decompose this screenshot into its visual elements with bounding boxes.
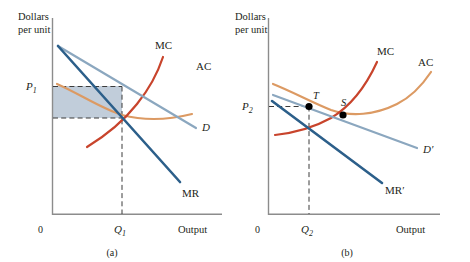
marginal-revenue-label-letters: MR	[385, 184, 403, 196]
average-cost-label: AC	[196, 60, 211, 72]
price-label-subscript: 2	[249, 106, 253, 115]
demand-label: D′	[422, 143, 434, 155]
point-s-marker	[339, 111, 346, 118]
panel-b-plot: Dollars per unit P2 Q2 0 Output T S MC A…	[235, 0, 470, 262]
quantity-label-subscript: 2	[309, 229, 313, 238]
quantity-label-letter: Q	[114, 223, 122, 235]
y-axis-title-line1: Dollars	[235, 11, 266, 22]
marginal-cost-label: MC	[377, 45, 394, 57]
demand-label-letter: D	[422, 143, 431, 155]
y-axis-title-line1: Dollars	[18, 11, 49, 22]
panel-b-caption: (b)	[341, 247, 353, 259]
x-axis-title: Output	[178, 224, 207, 235]
average-cost-curve	[273, 72, 431, 114]
marginal-revenue-label: MR	[182, 187, 200, 199]
y-axis-title-line2: per unit	[235, 24, 267, 35]
average-cost-label: AC	[418, 56, 433, 68]
x-axis-title: Output	[396, 224, 425, 235]
marginal-cost-label: MC	[155, 39, 172, 51]
origin-label: 0	[255, 224, 260, 235]
marginal-cost-curve	[275, 62, 377, 135]
quantity-label-letter: Q	[301, 223, 309, 235]
marginal-revenue-label: MR′	[385, 184, 405, 196]
profit-area-shaded	[53, 86, 122, 118]
demand-label: D	[201, 121, 210, 133]
panel-a-plot: Dollars per unit P1 Q1 0 Output MC AC D …	[0, 0, 235, 262]
origin-label: 0	[38, 224, 43, 235]
point-s-label: S	[341, 97, 347, 108]
point-t-label: T	[313, 90, 320, 101]
panel-b: Dollars per unit P2 Q2 0 Output T S MC A…	[235, 0, 470, 262]
quantity-label-q1: Q1	[114, 223, 126, 238]
price-label-subscript: 1	[33, 86, 37, 95]
point-t-marker	[305, 103, 312, 110]
panel-a: Dollars per unit P1 Q1 0 Output MC AC D …	[0, 0, 235, 262]
quantity-label-subscript: 1	[122, 229, 126, 238]
marginal-revenue-label-prime: ′	[402, 184, 404, 196]
price-label-p2: P2	[241, 100, 253, 115]
figure-monopolistic-competition: Dollars per unit P1 Q1 0 Output MC AC D …	[0, 0, 470, 262]
panel-a-caption: (a)	[106, 247, 117, 259]
demand-label-prime: ′	[431, 143, 434, 155]
quantity-label-q2: Q2	[301, 223, 313, 238]
price-label-p1: P1	[25, 80, 37, 95]
y-axis-title-line2: per unit	[18, 24, 50, 35]
